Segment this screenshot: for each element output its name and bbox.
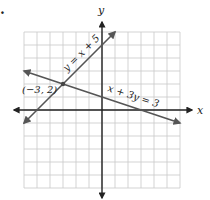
bullet-mark: . bbox=[0, 1, 5, 17]
y-axis-label: y bbox=[97, 4, 105, 17]
line2-label: x + 3y = 3 bbox=[106, 82, 160, 109]
graph: y x y = x + 5 x + 3y = 3 (−3, 2) . bbox=[0, 0, 210, 200]
intersection-point bbox=[61, 82, 65, 86]
intersection-label: (−3, 2) bbox=[22, 84, 57, 95]
line1-label: y = x + 5 bbox=[60, 32, 102, 74]
x-axis-label: x bbox=[197, 104, 204, 117]
